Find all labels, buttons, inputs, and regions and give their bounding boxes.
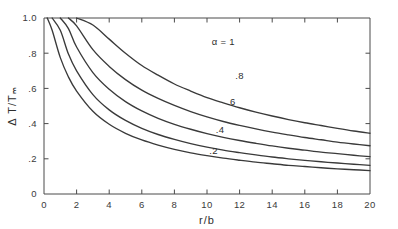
x-tick-label: 14 — [267, 199, 278, 210]
y-tick-label: .8 — [28, 48, 37, 59]
x-tick-label: 10 — [201, 199, 212, 210]
x-tick-label: 20 — [364, 199, 375, 210]
y-tick-label: .4 — [28, 118, 37, 129]
x-tick-label: 18 — [332, 199, 343, 210]
x-tick-label: 0 — [41, 199, 47, 210]
y-tick-label: .6 — [28, 83, 37, 94]
x-tick-label: 4 — [106, 199, 112, 210]
x-tick-label: 16 — [299, 199, 310, 210]
x-tick-label: 6 — [139, 199, 145, 210]
y-axis-label: Δ T/Tₘ — [6, 86, 18, 125]
figure-container: 02468101214161820 0.2.4.6.81.0 α = 1.8.6… — [0, 0, 398, 229]
x-tick-label: 12 — [234, 199, 245, 210]
curve-label: .6 — [227, 96, 236, 107]
line-chart: 02468101214161820 0.2.4.6.81.0 α = 1.8.6… — [0, 0, 398, 229]
curve-label: α = 1 — [212, 36, 235, 47]
x-axis-label: r/b — [199, 214, 215, 226]
x-tick-label: 2 — [74, 199, 80, 210]
y-axis-label-text: Δ T/Tₘ — [6, 86, 18, 125]
curve-label: .8 — [235, 70, 244, 81]
y-tick-label: 0 — [31, 188, 37, 199]
y-tick-label: 1.0 — [23, 12, 37, 23]
x-tick-label: 8 — [172, 199, 178, 210]
curve-label: .2 — [209, 145, 218, 156]
y-tick-label: .2 — [28, 153, 37, 164]
curve-label: .4 — [216, 124, 225, 135]
